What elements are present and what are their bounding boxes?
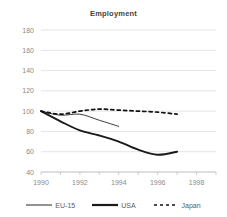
series-line-eu-15 xyxy=(41,111,119,126)
svg-text:160: 160 xyxy=(22,47,34,54)
legend-label-eu15: EU-15 xyxy=(55,202,75,209)
chart-legend: EU-15 USA Japan xyxy=(0,197,227,213)
legend-item-japan[interactable]: Japan xyxy=(153,201,201,209)
legend-label-usa: USA xyxy=(121,202,135,209)
svg-text:1998: 1998 xyxy=(189,179,205,186)
series-line-japan xyxy=(41,109,177,114)
svg-text:1996: 1996 xyxy=(150,179,166,186)
y-axis-tick-labels: 180160140120100806040 xyxy=(22,27,34,176)
svg-text:1990: 1990 xyxy=(33,179,49,186)
line-solid-thick-icon xyxy=(92,201,118,209)
line-solid-thin-icon xyxy=(26,201,52,209)
svg-text:60: 60 xyxy=(26,148,34,155)
employment-chart: Employment 180160140120100806040 1990199… xyxy=(0,0,227,217)
line-dashed-icon xyxy=(153,201,179,209)
legend-item-usa[interactable]: USA xyxy=(92,201,135,209)
gridlines xyxy=(41,30,216,172)
x-axis-ticks xyxy=(41,172,216,175)
svg-text:120: 120 xyxy=(22,87,34,94)
svg-text:180: 180 xyxy=(22,27,34,34)
svg-text:100: 100 xyxy=(22,108,34,115)
svg-text:1992: 1992 xyxy=(72,179,88,186)
svg-text:40: 40 xyxy=(26,169,34,176)
chart-plot-area: 180160140120100806040 199019921994199619… xyxy=(0,0,227,217)
svg-text:80: 80 xyxy=(26,128,34,135)
x-axis-tick-labels: 19901992199419961998 xyxy=(33,179,204,186)
legend-label-japan: Japan xyxy=(182,202,201,209)
series-line-usa xyxy=(41,111,177,155)
data-series-lines xyxy=(41,109,177,155)
legend-item-eu15[interactable]: EU-15 xyxy=(26,201,75,209)
svg-text:140: 140 xyxy=(22,67,34,74)
svg-text:1994: 1994 xyxy=(111,179,127,186)
